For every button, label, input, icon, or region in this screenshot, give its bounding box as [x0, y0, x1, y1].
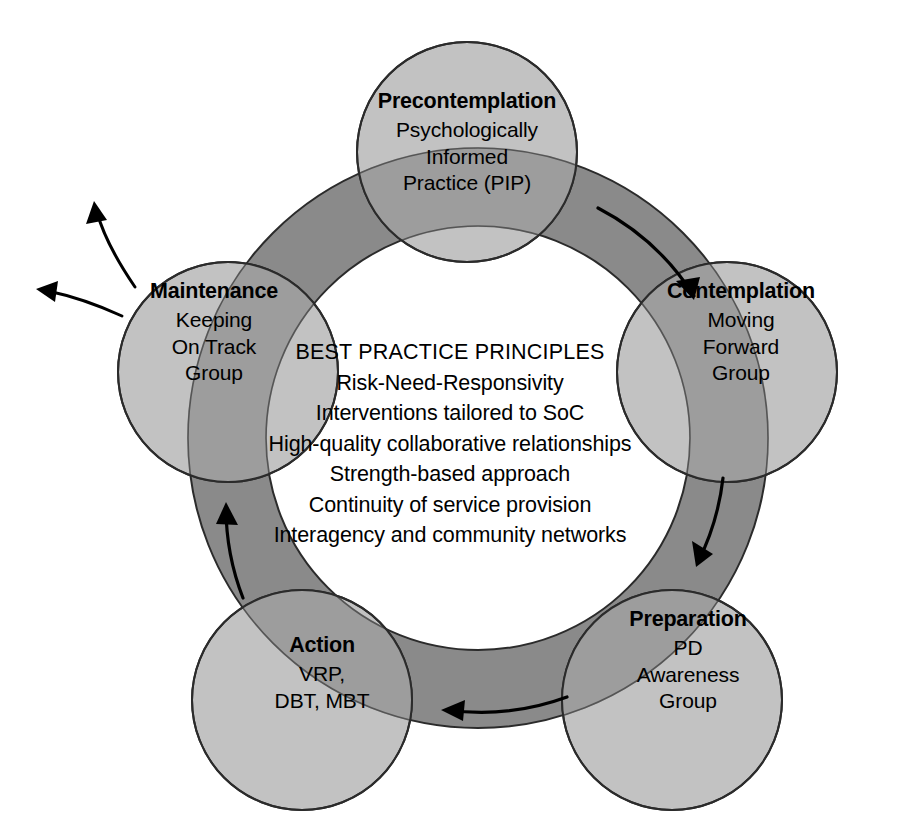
- exit-arrows: [36, 201, 135, 316]
- best-practice-principle-3: High-quality collaborative relationships: [240, 434, 660, 456]
- best-practice-principle-1: Risk-Need-Responsivity: [240, 373, 660, 395]
- diagram-canvas: Precontemplation Psychologically Informe…: [0, 0, 898, 837]
- exit-arrow-lower: [36, 281, 122, 316]
- exit-arrow-upper: [86, 201, 135, 287]
- best-practice-principle-5: Continuity of service provision: [240, 495, 660, 517]
- best-practice-principle-6: Interagency and community networks: [240, 525, 660, 547]
- best-practice-principle-2: Interventions tailored to SoC: [240, 403, 660, 425]
- best-practice-principle-4: Strength-based approach: [240, 464, 660, 486]
- best-practice-principles-heading: BEST PRACTICE PRINCIPLES: [240, 342, 660, 364]
- best-practice-principles-block: BEST PRACTICE PRINCIPLES Risk-Need-Respo…: [240, 342, 660, 556]
